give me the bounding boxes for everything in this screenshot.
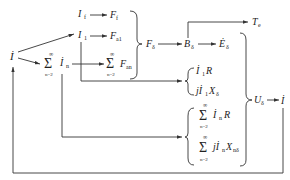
node-I1R: İ 1 R: [195, 65, 212, 77]
svg-text:Σ: Σ: [199, 140, 207, 155]
svg-text:R: R: [223, 109, 230, 120]
svg-text:n=2: n=2: [200, 124, 208, 129]
svg-text:jİ: jİ: [194, 85, 203, 96]
arrow-I-to-I1: [18, 34, 74, 52]
node-If: I f: [77, 8, 86, 20]
node-Ud: U δ: [254, 94, 264, 106]
svg-text:n: n: [66, 63, 69, 69]
arrow-I1-to-impedance: [81, 42, 182, 81]
svg-text:f: f: [84, 14, 86, 20]
input-current-label: İ: [9, 50, 15, 62]
node-I1: I 1: [77, 29, 87, 41]
svg-text:Σ: Σ: [199, 108, 207, 123]
arrow-I-to-sumIn: [18, 58, 40, 64]
node-Fd: F δ: [145, 38, 155, 50]
svg-text:δ: δ: [261, 100, 264, 106]
node-InR: ∞ Σ n=2 İ n R: [199, 102, 230, 129]
svg-text:İ: İ: [59, 57, 64, 68]
svg-text:Σ: Σ: [106, 56, 114, 71]
svg-text:İ: İ: [195, 65, 200, 76]
svg-text:X: X: [208, 85, 216, 96]
node-Ed: Ė δ: [218, 38, 229, 50]
node-sum-Fan: ∞ Σ n=2 F an: [106, 51, 132, 77]
brace-mmf: [130, 11, 142, 79]
svg-text:İ: İ: [212, 109, 217, 120]
node-sum-In: ∞ Σ n=2 İ n: [44, 51, 69, 77]
svg-text:X: X: [225, 141, 233, 152]
svg-text:n: n: [219, 115, 222, 121]
svg-text:1: 1: [202, 71, 205, 77]
output-current-label: İ: [280, 95, 285, 106]
svg-text:a1: a1: [116, 36, 122, 42]
svg-text:f: f: [116, 15, 118, 21]
svg-text:δ: δ: [226, 44, 229, 50]
node-Te: T e: [252, 16, 261, 28]
signal-flow-diagram: İ I f F f I 1 F a1 ∞ Σ n=2 İ n ∞ Σ n=2 F…: [0, 0, 290, 180]
svg-text:n=2: n=2: [200, 157, 208, 162]
node-Bd: B δ: [184, 38, 194, 50]
svg-text:n=2: n=2: [45, 72, 53, 77]
svg-text:n: n: [222, 147, 225, 153]
svg-text:I: I: [77, 8, 82, 19]
arrow-Bd-to-Te: [188, 22, 248, 38]
svg-text:1: 1: [205, 91, 208, 97]
svg-text:1: 1: [84, 35, 87, 41]
arrow-sumIn-to-harmonic-impedance: [62, 74, 182, 137]
svg-text:Σ: Σ: [44, 56, 52, 71]
svg-text:δ: δ: [152, 44, 155, 50]
brace-voltage-sum: [240, 33, 252, 166]
svg-text:jİ: jİ: [211, 141, 220, 152]
svg-text:Ė: Ė: [218, 38, 225, 49]
svg-text:e: e: [258, 22, 261, 28]
node-Fa1: F a1: [109, 30, 122, 42]
svg-text:B: B: [184, 38, 190, 49]
svg-text:δ: δ: [191, 44, 194, 50]
svg-text:n=2: n=2: [107, 72, 115, 77]
feedback-loop: [13, 67, 283, 173]
node-Ff: F f: [109, 9, 118, 21]
node-jInX: ∞ Σ n=2 jİ n X nδ: [199, 134, 239, 162]
svg-text:an: an: [126, 64, 132, 70]
svg-text:I: I: [77, 29, 82, 40]
brace-fundamental-drop: [185, 68, 194, 95]
svg-text:δ: δ: [216, 91, 219, 97]
node-jI1X: jİ 1 X δ: [194, 85, 219, 97]
svg-text:R: R: [205, 65, 212, 76]
svg-text:nδ: nδ: [233, 147, 239, 153]
brace-harmonic-drop: [185, 108, 194, 165]
